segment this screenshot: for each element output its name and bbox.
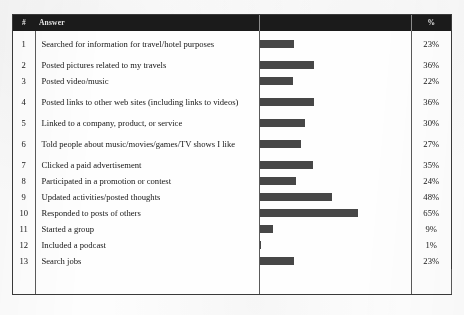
bar	[260, 40, 295, 48]
row-bar-cell	[259, 253, 411, 269]
row-bar-cell	[259, 31, 411, 57]
row-percent-value: 24%	[411, 173, 451, 189]
bar	[260, 193, 333, 201]
row-bar-cell	[259, 157, 411, 173]
bar	[260, 98, 315, 106]
row-percent-value: 22%	[411, 73, 451, 89]
row-percent-value: 1%	[411, 237, 451, 253]
table-row: 9Updated activities/posted thoughts48%	[13, 189, 451, 205]
table-body: 1Searched for information for travel/hot…	[13, 31, 451, 294]
table-row: 5Linked to a company, product, or servic…	[13, 115, 451, 131]
row-bar-cell	[259, 131, 411, 157]
bar	[260, 161, 313, 169]
row-number: 10	[13, 205, 35, 221]
column-header-percent: %	[411, 15, 451, 31]
column-header-number: #	[13, 15, 35, 31]
bar	[260, 61, 315, 69]
bar	[260, 177, 296, 185]
bar	[260, 257, 295, 265]
row-number: 4	[13, 89, 35, 115]
row-number: 12	[13, 237, 35, 253]
row-percent-value: 23%	[411, 31, 451, 57]
row-number: 9	[13, 189, 35, 205]
table-row: 12Included a podcast1%	[13, 237, 451, 253]
table-row: 2Posted pictures related to my travels36…	[13, 57, 451, 73]
table-row: 6Told people about music/movies/games/TV…	[13, 131, 451, 157]
bar	[260, 225, 274, 233]
row-number: 6	[13, 131, 35, 157]
row-number: 13	[13, 253, 35, 269]
row-number: 8	[13, 173, 35, 189]
filler-cell	[411, 269, 451, 294]
survey-results-table-container: # Answer % 1Searched for information for…	[12, 14, 452, 295]
survey-results-table: # Answer % 1Searched for information for…	[13, 15, 452, 294]
row-answer-label: Started a group	[35, 221, 259, 237]
row-bar-cell	[259, 57, 411, 73]
filler-cell	[259, 269, 411, 294]
row-percent-value: 27%	[411, 131, 451, 157]
row-bar-cell	[259, 115, 411, 131]
row-percent-value: 48%	[411, 189, 451, 205]
row-bar-cell	[259, 89, 411, 115]
bar	[260, 140, 301, 148]
row-answer-label: Posted video/music	[35, 73, 259, 89]
bar	[260, 209, 359, 217]
row-answer-label: Responded to posts of others	[35, 205, 259, 221]
table-row: 3Posted video/music22%	[13, 73, 451, 89]
bar	[260, 241, 262, 249]
row-answer-label: Searched for information for travel/hote…	[35, 31, 259, 57]
row-answer-label: Updated activities/posted thoughts	[35, 189, 259, 205]
row-percent-value: 36%	[411, 89, 451, 115]
row-percent-value: 23%	[411, 253, 451, 269]
row-percent-value: 30%	[411, 115, 451, 131]
table-row: 13Search jobs23%	[13, 253, 451, 269]
row-answer-label: Included a podcast	[35, 237, 259, 253]
row-bar-cell	[259, 205, 411, 221]
table-row: 1Searched for information for travel/hot…	[13, 31, 451, 57]
row-number: 5	[13, 115, 35, 131]
row-number: 7	[13, 157, 35, 173]
row-percent-value: 35%	[411, 157, 451, 173]
table-header: # Answer %	[13, 15, 451, 31]
row-answer-label: Told people about music/movies/games/TV …	[35, 131, 259, 157]
table-filler-row	[13, 269, 451, 294]
row-answer-label: Participated in a promotion or contest	[35, 173, 259, 189]
filler-cell	[35, 269, 259, 294]
bar	[260, 119, 306, 127]
row-bar-cell	[259, 221, 411, 237]
row-answer-label: Posted pictures related to my travels	[35, 57, 259, 73]
row-percent-value: 9%	[411, 221, 451, 237]
table-row: 7Clicked a paid advertisement35%	[13, 157, 451, 173]
table-header-row: # Answer %	[13, 15, 451, 31]
row-bar-cell	[259, 173, 411, 189]
row-number: 1	[13, 31, 35, 57]
row-bar-cell	[259, 73, 411, 89]
table-row: 10Responded to posts of others65%	[13, 205, 451, 221]
bar	[260, 77, 293, 85]
row-answer-label: Search jobs	[35, 253, 259, 269]
row-number: 11	[13, 221, 35, 237]
table-row: 4Posted links to other web sites (includ…	[13, 89, 451, 115]
filler-cell	[13, 269, 35, 294]
column-header-answer: Answer	[35, 15, 259, 31]
row-bar-cell	[259, 189, 411, 205]
row-answer-label: Posted links to other web sites (includi…	[35, 89, 259, 115]
row-answer-label: Clicked a paid advertisement	[35, 157, 259, 173]
row-answer-label: Linked to a company, product, or service	[35, 115, 259, 131]
column-header-chart	[259, 15, 411, 31]
table-row: 8Participated in a promotion or contest2…	[13, 173, 451, 189]
table-row: 11Started a group9%	[13, 221, 451, 237]
row-bar-cell	[259, 237, 411, 253]
row-number: 2	[13, 57, 35, 73]
row-percent-value: 36%	[411, 57, 451, 73]
row-percent-value: 65%	[411, 205, 451, 221]
row-number: 3	[13, 73, 35, 89]
